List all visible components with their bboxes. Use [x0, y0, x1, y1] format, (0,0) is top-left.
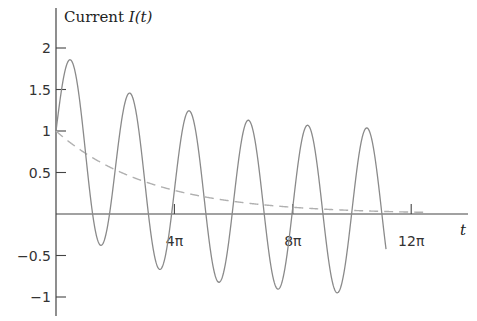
y-tick-label: 0.5 — [29, 165, 51, 181]
y-tick-label: 2 — [42, 40, 51, 56]
current-curve-solid — [56, 60, 386, 293]
y-tick-label: 1 — [42, 123, 51, 139]
y-tick-label: 1.5 — [29, 82, 51, 98]
y-tick-label: −1 — [30, 289, 51, 305]
chart-canvas: 21.510.5−0.5−14π8π12π Current I(t) t — [0, 0, 477, 321]
axes — [56, 8, 468, 316]
y-axis-title: Current I(t) — [64, 8, 153, 26]
x-tick-label: 12π — [398, 233, 425, 249]
x-tick-label: 8π — [284, 233, 302, 249]
ticks: 21.510.5−0.5−14π8π12π — [17, 40, 425, 305]
y-tick-label: −0.5 — [17, 248, 51, 264]
x-axis-label: t — [460, 221, 467, 239]
